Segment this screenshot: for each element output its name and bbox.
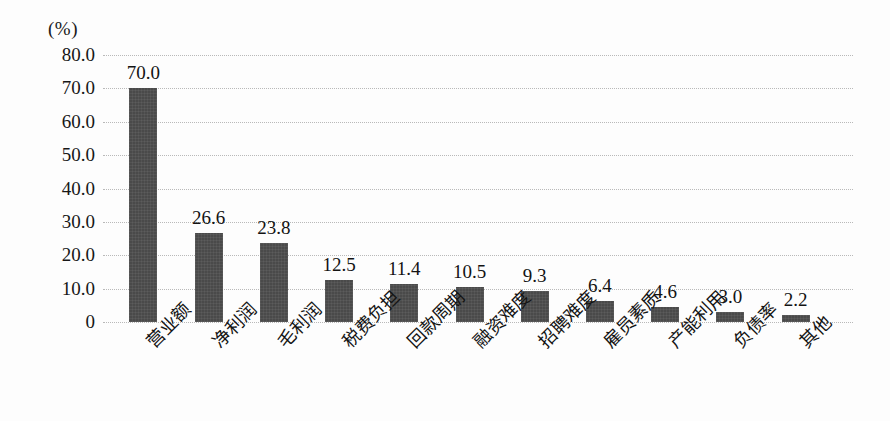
y-axis-tick-label: 0 [33, 311, 95, 333]
y-axis-tick-label: 80.0 [33, 44, 95, 66]
bar-group: 26.6 [176, 55, 241, 322]
bar-value-label: 23.8 [257, 218, 290, 237]
x-axis-label-slot: 负债率 [698, 322, 763, 421]
x-axis-label-slot: 净利润 [176, 322, 241, 421]
bar-group: 9.3 [502, 55, 567, 322]
bar [260, 243, 288, 322]
y-axis-tick-label: 10.0 [33, 278, 95, 300]
x-axis-labels: 营业额净利润毛利润税费负担回款周期融资难度招聘难度雇员素质产能利用负债率其他 [103, 322, 853, 421]
y-axis-tick-label: 20.0 [33, 244, 95, 266]
x-axis-label-slot: 毛利润 [241, 322, 306, 421]
x-axis-label-slot: 招聘难度 [502, 322, 567, 421]
bar-value-label: 12.5 [322, 255, 355, 274]
bar-group: 23.8 [241, 55, 306, 322]
bar-group: 2.2 [763, 55, 828, 322]
bar-value-label: 9.3 [523, 266, 547, 285]
y-axis-tick-labels: 80.070.060.050.040.030.020.010.00 [33, 55, 95, 322]
bar [325, 280, 353, 322]
bar-group: 4.6 [633, 55, 698, 322]
bar-value-label: 11.4 [388, 259, 421, 278]
x-axis-label-slot: 回款周期 [372, 322, 437, 421]
bar-value-label: 2.2 [784, 290, 808, 309]
y-axis-tick-label: 30.0 [33, 211, 95, 233]
x-axis-label-slot: 营业额 [111, 322, 176, 421]
y-axis-tick-label: 60.0 [33, 111, 95, 133]
bar [195, 233, 223, 322]
bar-group: 3.0 [698, 55, 763, 322]
y-axis-tick-label: 40.0 [33, 178, 95, 200]
x-axis-label-slot: 产能利用 [633, 322, 698, 421]
bar [129, 88, 157, 322]
x-axis-label-slot: 税费负担 [306, 322, 371, 421]
bar-group: 70.0 [111, 55, 176, 322]
y-axis-tick-label: 50.0 [33, 144, 95, 166]
x-axis-label-slot: 其他 [763, 322, 828, 421]
bars-layer: 70.026.623.812.511.410.59.36.44.63.02.2 [103, 55, 853, 322]
bar-group: 12.5 [306, 55, 371, 322]
bar-group: 6.4 [567, 55, 632, 322]
y-axis-unit-label: (%) [48, 18, 78, 40]
bar-chart: (%) 80.070.060.050.040.030.020.010.00 70… [0, 0, 890, 421]
bar-value-label: 70.0 [127, 63, 160, 82]
bar-group: 11.4 [372, 55, 437, 322]
bar-value-label: 26.6 [192, 208, 225, 227]
x-axis-label-slot: 融资难度 [437, 322, 502, 421]
y-axis-tick-label: 70.0 [33, 77, 95, 99]
x-axis-label-slot: 雇员素质 [567, 322, 632, 421]
bar-value-label: 6.4 [588, 276, 612, 295]
bar-group: 10.5 [437, 55, 502, 322]
bar-value-label: 10.5 [453, 262, 486, 281]
